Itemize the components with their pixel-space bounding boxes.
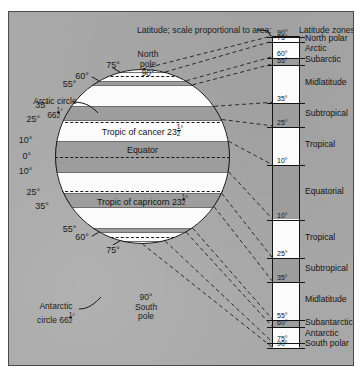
scale-tick-rule bbox=[267, 327, 305, 328]
zone-label-south-polar: South polar bbox=[305, 338, 349, 348]
zone-connector bbox=[165, 41, 272, 72]
scale-tick-label: 75° bbox=[277, 34, 288, 41]
zone-label-subarctic: Subarctic bbox=[305, 54, 341, 64]
zone-label-antarctic: Antarctic bbox=[305, 328, 338, 338]
globe-rim-tick-label: 60° bbox=[69, 232, 89, 242]
scale-tick-label: 55° bbox=[277, 312, 288, 319]
globe-rim-tick-label: 25° bbox=[20, 187, 40, 197]
diagram-plate: Tropic of cancer 2312° Equator Tropic of… bbox=[8, 11, 354, 366]
scale-tick-rule bbox=[267, 65, 305, 66]
globe-rim-tick-label: 0° bbox=[11, 151, 31, 161]
zone-label-north-polar: North polar bbox=[305, 33, 348, 43]
globe-rim-tick-label: 10° bbox=[12, 166, 32, 176]
globe-label-equator: Equator bbox=[55, 145, 230, 155]
globe-label-tropic-of-capricorn: Tropic of capricorn 2312° bbox=[55, 194, 230, 207]
scale-tick-rule bbox=[267, 258, 305, 259]
globe-rim-tick-label: 35° bbox=[29, 201, 49, 211]
scale-tick-label: 35° bbox=[277, 95, 288, 102]
scale-tick-label: 55° bbox=[277, 57, 288, 64]
scale-tick-label: 10° bbox=[277, 212, 288, 219]
globe-label-north-pole: Northpole90° bbox=[121, 50, 175, 79]
globe-label-south-pole: 90°Southpole bbox=[119, 293, 173, 322]
scale-tick-rule bbox=[267, 127, 305, 128]
scale-tick-label: 60° bbox=[277, 50, 288, 57]
globe-rim-tick-label: 75° bbox=[100, 245, 120, 255]
zone-label-equatorial: Equatorial bbox=[305, 186, 344, 196]
scale-tick-label: 60° bbox=[277, 319, 288, 326]
scale-tick-rule bbox=[267, 165, 305, 166]
globe-diagram bbox=[55, 69, 230, 244]
zone-label-subtropical: Subtropical bbox=[305, 108, 348, 118]
globe-rim-tick-label: 10° bbox=[12, 135, 32, 145]
globe-label-tropic-of-cancer: Tropic of cancer 2312° bbox=[55, 124, 230, 137]
zone-connector bbox=[229, 172, 272, 219]
zone-label-midlatitude: Midlatitude bbox=[305, 294, 347, 304]
zone-label-tropical: Tropical bbox=[305, 232, 335, 242]
globe-rim-tick-label: 35° bbox=[29, 100, 49, 110]
scale-tick-rule bbox=[267, 220, 305, 221]
scale-tick-label: 90° bbox=[277, 340, 288, 347]
scale-tick-rule bbox=[267, 103, 305, 104]
scale-tick-rule bbox=[267, 348, 305, 349]
globe-label-antarctic-circle: Antarcticcircle 6612° bbox=[17, 302, 95, 325]
globe-rim-tick-label: 25° bbox=[20, 114, 40, 124]
figure-caption: Latitude; scale proportional to area: bbox=[137, 26, 255, 36]
zone-connector bbox=[165, 241, 272, 342]
zone-label-subtropical: Subtropical bbox=[305, 263, 348, 273]
scale-tick-rule bbox=[267, 282, 305, 283]
scale-tick-rule bbox=[267, 42, 305, 43]
scale-tick-label: 10° bbox=[277, 157, 288, 164]
figure-root: Tropic of cancer 2312° Equator Tropic of… bbox=[0, 0, 360, 373]
zone-connector bbox=[229, 141, 272, 164]
globe-rim-tick-label: 75° bbox=[100, 60, 120, 70]
zone-label-midlatitude: Midlatitude bbox=[305, 77, 347, 87]
zone-label-subantarctic: Subantarctic bbox=[305, 317, 353, 327]
scale-tick-label: 25° bbox=[277, 250, 288, 257]
zone-connector bbox=[186, 232, 272, 326]
zone-label-arctic: Arctic bbox=[305, 43, 326, 53]
scale-tick-label: 35° bbox=[277, 274, 288, 281]
scale-tick-label: 25° bbox=[277, 119, 288, 126]
zone-label-tropical: Tropical bbox=[305, 139, 335, 149]
globe-rim-tick-label: 55° bbox=[56, 79, 76, 89]
latitude-scale-column: N S 90°75°60°55°35°25°10°10°25°35°55°60°… bbox=[272, 36, 300, 347]
globe-outline bbox=[55, 69, 230, 244]
